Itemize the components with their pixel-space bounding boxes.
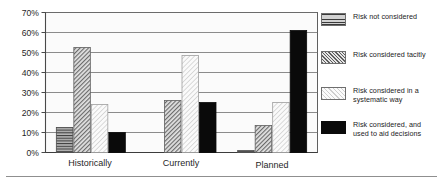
y-tick-label-10: 10% — [22, 128, 40, 138]
y-tick-label-30: 30% — [22, 88, 40, 98]
legend-swatch-solid-black-icon — [321, 121, 346, 134]
legend-item-risk-considered-tacitly: Risk considered tacitly — [321, 50, 426, 64]
bar-planned-risk-considered-systematic — [273, 103, 290, 153]
x-tick-labels: Historically Currently Planned — [68, 158, 288, 170]
y-axis-ticks — [42, 13, 46, 153]
bar-historically-risk-considered-systematic — [91, 105, 108, 153]
y-tick-labels: 70% 60% 50% 40% 30% 20% 10% 0% — [22, 8, 40, 158]
legend-swatch-diagonal-hatch-icon — [321, 51, 346, 64]
y-tick-label-0: 0% — [27, 148, 40, 158]
legend-label-risk-considered-systematic: Risk considered in asystematic way — [353, 86, 419, 105]
bar-currently-risk-considered-systematic — [182, 56, 199, 153]
footer-divider — [6, 176, 437, 177]
bar-planned-risk-not-considered — [238, 151, 255, 153]
bar-planned-risk-considered-tacitly — [255, 126, 271, 153]
y-tick-label-40: 40% — [22, 68, 40, 78]
x-tick-label-currently: Currently — [163, 158, 200, 168]
y-tick-label-20: 20% — [22, 108, 40, 118]
legend-item-risk-considered-aid-decisions: Risk considered, andused to aid decision… — [321, 120, 421, 139]
legend-label-risk-not-considered: Risk not considered — [353, 12, 417, 21]
chart-legend: Risk not considered Risk considered taci… — [321, 12, 441, 152]
y-tick-label-70: 70% — [22, 8, 40, 18]
x-tick-label-planned: Planned — [255, 160, 288, 170]
legend-item-risk-not-considered: Risk not considered — [321, 12, 417, 26]
x-tick-label-historically: Historically — [68, 158, 112, 168]
bar-chart-figure: 70% 60% 50% 40% 30% 20% 10% 0% Historica… — [0, 0, 443, 184]
legend-label-risk-considered-tacitly: Risk considered tacitly — [353, 50, 426, 59]
y-tick-label-60: 60% — [22, 28, 40, 38]
y-tick-label-50: 50% — [22, 48, 40, 58]
bar-historically-risk-considered-aid-decisions — [109, 133, 126, 153]
legend-swatch-horizontal-lines-icon — [321, 13, 346, 26]
bar-currently-risk-considered-tacitly — [165, 101, 182, 153]
bar-historically-risk-considered-tacitly — [74, 48, 91, 153]
bar-currently-risk-considered-aid-decisions — [200, 103, 217, 153]
legend-label-risk-considered-aid-decisions: Risk considered, andused to aid decision… — [353, 120, 421, 139]
legend-swatch-light-diagonal-icon — [321, 87, 346, 100]
legend-item-risk-considered-systematic: Risk considered in asystematic way — [321, 86, 419, 105]
bar-historically-risk-not-considered — [56, 128, 73, 153]
bar-planned-risk-considered-aid-decisions — [290, 31, 307, 153]
